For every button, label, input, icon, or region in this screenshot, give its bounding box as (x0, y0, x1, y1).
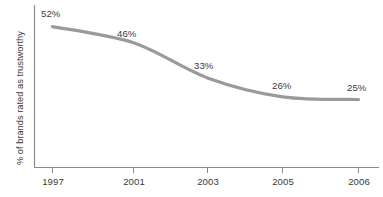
y-axis-title: % of brands rated as trustworthy (13, 0, 27, 165)
data-label-2005: 26% (272, 80, 292, 91)
x-tick-label-1997: 1997 (33, 176, 73, 187)
line-chart: % of brands rated as trustworthy 1997 20… (0, 0, 383, 197)
data-label-1997: 52% (41, 8, 61, 19)
data-label-2001: 46% (117, 28, 137, 39)
x-tick-label-2006: 2006 (339, 176, 379, 187)
data-label-2006: 25% (347, 82, 367, 93)
x-tick-label-2003: 2003 (188, 176, 228, 187)
data-label-2003: 33% (194, 60, 214, 71)
x-tick-label-2005: 2005 (263, 176, 303, 187)
x-tick-label-2001: 2001 (114, 176, 154, 187)
chart-canvas (0, 0, 383, 197)
